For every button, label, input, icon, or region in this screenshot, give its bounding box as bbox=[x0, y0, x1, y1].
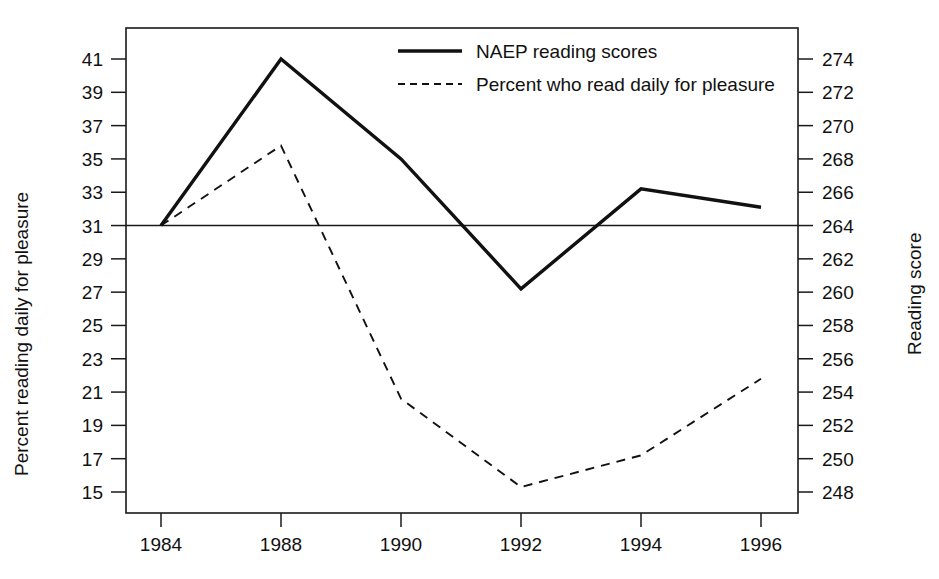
right-tick-label: 262 bbox=[822, 249, 854, 270]
legend-label-naep-reading-scores: NAEP reading scores bbox=[476, 41, 657, 62]
left-tick-label: 25 bbox=[82, 315, 103, 336]
left-tick-label: 37 bbox=[82, 116, 103, 137]
left-axis-title: Percent reading daily for pleasure bbox=[11, 192, 32, 476]
right-tick-label: 258 bbox=[822, 315, 854, 336]
left-tick-label: 29 bbox=[82, 249, 103, 270]
x-tick-label: 1996 bbox=[740, 534, 782, 555]
chart-legend: NAEP reading scores Percent who read dai… bbox=[398, 41, 775, 95]
right-tick-label: 272 bbox=[822, 82, 854, 103]
plot-area-frame bbox=[126, 28, 798, 513]
x-axis-ticks: 198419881990199219941996 bbox=[140, 513, 782, 555]
right-tick-label: 252 bbox=[822, 415, 854, 436]
legend-label-percent-read-daily: Percent who read daily for pleasure bbox=[476, 74, 775, 95]
right-tick-label: 268 bbox=[822, 149, 854, 170]
x-tick-label: 1984 bbox=[140, 534, 183, 555]
right-tick-label: 248 bbox=[822, 482, 854, 503]
left-tick-label: 35 bbox=[82, 149, 103, 170]
left-tick-label: 23 bbox=[82, 349, 103, 370]
right-tick-label: 260 bbox=[822, 282, 854, 303]
left-tick-label: 41 bbox=[82, 49, 103, 70]
x-tick-label: 1994 bbox=[620, 534, 663, 555]
left-tick-label: 39 bbox=[82, 82, 103, 103]
chart-figure: 4139373533312927252321191715 27427227026… bbox=[0, 0, 939, 579]
right-tick-label: 266 bbox=[822, 182, 854, 203]
right-tick-label: 254 bbox=[822, 382, 854, 403]
left-tick-label: 27 bbox=[82, 282, 103, 303]
right-tick-label: 250 bbox=[822, 449, 854, 470]
right-tick-label: 274 bbox=[822, 49, 854, 70]
left-tick-label: 31 bbox=[82, 216, 103, 237]
series-percent-read-daily bbox=[161, 146, 761, 487]
left-tick-label: 15 bbox=[82, 482, 103, 503]
left-axis-ticks: 4139373533312927252321191715 bbox=[82, 49, 126, 503]
x-tick-label: 1988 bbox=[260, 534, 302, 555]
left-tick-label: 17 bbox=[82, 449, 103, 470]
right-tick-label: 264 bbox=[822, 216, 854, 237]
x-tick-label: 1990 bbox=[380, 534, 422, 555]
x-tick-label: 1992 bbox=[500, 534, 542, 555]
line-chart-svg: 4139373533312927252321191715 27427227026… bbox=[0, 0, 939, 579]
left-tick-label: 33 bbox=[82, 182, 103, 203]
right-tick-label: 270 bbox=[822, 116, 854, 137]
left-tick-label: 21 bbox=[82, 382, 103, 403]
right-axis-ticks: 2742722702682662642622602582562542522502… bbox=[798, 49, 854, 503]
right-tick-label: 256 bbox=[822, 349, 854, 370]
right-axis-title: Reading score bbox=[904, 232, 925, 355]
left-tick-label: 19 bbox=[82, 415, 103, 436]
